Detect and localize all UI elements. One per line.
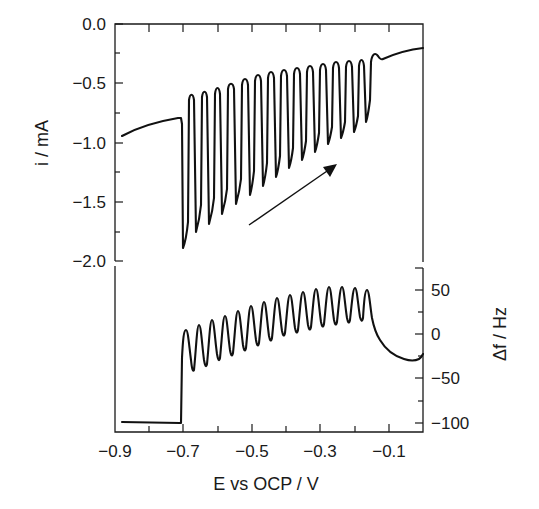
lower-panel: 50 0 −50 −100 Δf / Hz <box>115 266 510 433</box>
lower-panel-frame <box>115 266 423 432</box>
chart-figure: 0.0 −0.5 −1.0 −1.5 −2.0 i / mA <box>0 0 539 509</box>
upper-panel: 0.0 −0.5 −1.0 −1.5 −2.0 i / mA <box>32 15 423 271</box>
lower-y-tick-label: −50 <box>431 369 460 388</box>
x-axis-label: E vs OCP / V <box>213 474 319 494</box>
lower-y-tick-label: −100 <box>431 414 469 433</box>
upper-y-tick-label: 0.0 <box>82 15 106 34</box>
lower-y-axis-label: Δf / Hz <box>490 307 510 361</box>
x-tick-labels: −0.9 −0.7 −0.5 −0.3 −0.1 <box>98 442 406 461</box>
x-tick-label: −0.9 <box>98 442 132 461</box>
frequency-trace <box>122 287 423 423</box>
upper-x-ticks <box>149 24 389 32</box>
lower-y-ticks <box>415 268 423 423</box>
upper-panel-frame <box>115 24 423 262</box>
upper-y-tick-label: −1.0 <box>72 134 106 153</box>
upper-y-tick-label: −2.0 <box>72 252 106 271</box>
lower-x-ticks <box>149 424 389 432</box>
lower-y-tick-label: 50 <box>431 281 450 300</box>
upper-y-axis-label: i / mA <box>32 120 52 166</box>
upper-y-tick-label: −0.5 <box>72 74 106 93</box>
lower-y-tick-label: 0 <box>431 325 440 344</box>
current-trace <box>122 48 423 248</box>
upper-y-ticks <box>115 24 123 261</box>
x-tick-label: −0.1 <box>372 442 406 461</box>
x-tick-label: −0.5 <box>235 442 269 461</box>
x-tick-label: −0.3 <box>303 442 337 461</box>
x-tick-label: −0.7 <box>166 442 200 461</box>
upper-y-tick-label: −1.5 <box>72 193 106 212</box>
